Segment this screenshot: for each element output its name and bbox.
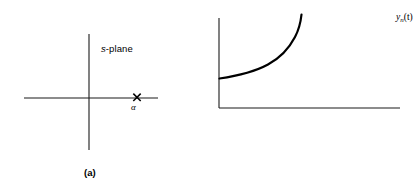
s-plane-label-suffix: -plane: [106, 43, 133, 54]
caption-a: (a): [84, 168, 96, 178]
panel-b-time-response: yn(t) t (b): [208, 0, 417, 189]
y-axis-label: yn(t): [396, 13, 413, 24]
s-plane-axes-svg: [0, 0, 208, 189]
exponential-growth-curve: [220, 15, 302, 79]
alpha-pole-label: α: [131, 103, 136, 112]
y-axis-label-argument: (t): [404, 12, 413, 22]
pole-marker-x-icon: [133, 94, 140, 101]
s-plane-label: s-plane: [101, 44, 133, 54]
figure-container: s-plane α (a) yn(t) t (b): [0, 0, 417, 189]
panel-a-s-plane: s-plane α (a): [0, 0, 208, 189]
time-response-plot-svg: [208, 0, 417, 189]
